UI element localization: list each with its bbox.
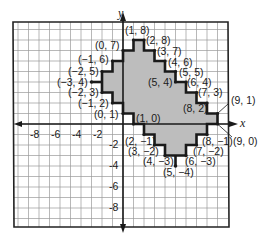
y-tick-label: -2: [109, 138, 118, 150]
y-tick-label: -8: [109, 201, 118, 213]
x-tick-label: -2: [93, 128, 102, 140]
x-axis-label: x: [239, 116, 246, 130]
coordinate-grid-diagram: y x -8 -6 -4 -2 -2 -4 -6 -8 (1, 8) (2, 8…: [0, 0, 268, 243]
x-axis-right-arrow-icon: [229, 121, 238, 127]
point-label: (−1, 6): [78, 53, 109, 65]
y-axis-down-arrow-icon: [120, 224, 126, 233]
leader-9-1: [218, 104, 229, 114]
x-tick-label: -6: [51, 128, 60, 140]
y-tick-label: -6: [109, 180, 118, 192]
x-tick-label: -4: [72, 128, 81, 140]
point-label: (5, −4): [163, 166, 194, 178]
point-label: (0, 1): [94, 108, 119, 120]
point-label: (9, 1): [231, 94, 256, 106]
point-label: (7, 3): [198, 86, 223, 98]
y-tick-label: -4: [109, 159, 118, 171]
point-label: (9, 0): [233, 135, 258, 147]
point-label: (1, 0): [136, 112, 161, 124]
point-label: (0, 7): [95, 39, 120, 51]
point-label: (8, 2): [183, 102, 208, 114]
y-axis-label: y: [117, 6, 124, 20]
point-neg3-4: [90, 80, 94, 84]
x-tick-label: -8: [30, 128, 39, 140]
point-label: (5, 4): [148, 76, 173, 88]
